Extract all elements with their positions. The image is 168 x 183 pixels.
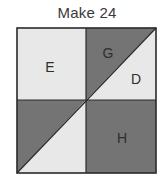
label-e: E [45, 59, 54, 75]
label-h: H [117, 130, 127, 146]
label-d: D [131, 71, 141, 87]
label-g: G [103, 45, 114, 61]
make-24-puzzle-diagram: E G D H [0, 0, 168, 183]
